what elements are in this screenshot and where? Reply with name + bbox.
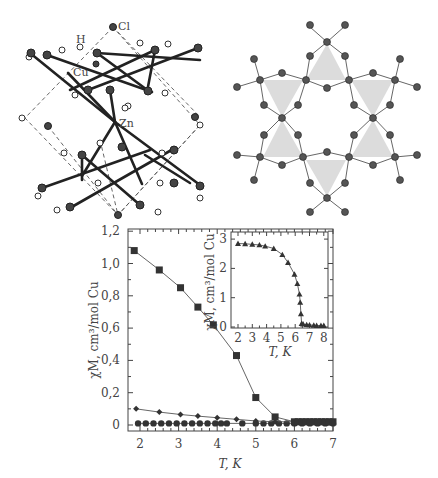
y-tick-label: 0	[112, 418, 120, 432]
inset-x-tick-label: 5	[277, 331, 285, 345]
y-tick-label: 0,6	[101, 321, 120, 335]
inset-y-tick-label: 2	[219, 261, 227, 275]
crystal-structure-3d: Cl H Cu Zn	[0, 0, 220, 220]
susceptibility-chart: 23456700,20,40,60,81,01,2T, KχM, cm³/mol…	[0, 218, 438, 478]
x-tick-label: 7	[329, 437, 337, 451]
x-axis-label: T, K	[219, 457, 243, 471]
y-axis-label: χM, cm³/mol Cu	[87, 281, 101, 379]
inset-x-tick-label: 3	[248, 331, 256, 345]
x-tick-label: 6	[291, 437, 299, 451]
inset-y-tick-label: 0	[219, 320, 227, 334]
atom-label-cu: Cu	[73, 66, 89, 79]
inset-x-tick-label: 6	[291, 331, 299, 345]
inset-y-tick-label: 1	[219, 291, 227, 305]
inset-x-tick-label: 7	[306, 331, 314, 345]
y-tick-label: 0,4	[101, 353, 120, 367]
atom-label-h: H	[76, 33, 86, 46]
atom-label-cl: Cl	[118, 20, 130, 33]
inset-x-axis-label: T, K	[269, 345, 293, 359]
inset-y-axis-label: χM, cm³/mol Cu	[203, 233, 217, 331]
inset-x-tick-label: 8	[320, 331, 328, 345]
kagome-lattice	[218, 0, 438, 220]
inset-plot: 23456780123T, KχM, cm³/mol Cu	[203, 232, 328, 359]
atom-label-zn: Zn	[119, 117, 134, 130]
inset-y-tick-label: 3	[219, 232, 227, 246]
y-tick-label: 1,2	[101, 224, 120, 238]
x-tick-label: 4	[213, 437, 221, 451]
x-tick-label: 2	[136, 437, 144, 451]
inset-x-tick-label: 4	[263, 331, 271, 345]
y-tick-label: 0,8	[101, 289, 120, 303]
y-tick-label: 0,2	[101, 386, 120, 400]
inset-x-tick-label: 2	[234, 331, 242, 345]
x-tick-label: 5	[252, 437, 260, 451]
x-tick-label: 3	[175, 437, 183, 451]
y-tick-label: 1,0	[101, 257, 120, 271]
